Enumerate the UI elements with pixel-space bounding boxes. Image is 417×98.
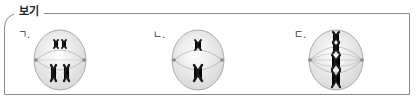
item-label-nieun: ㄴ. xyxy=(153,29,165,41)
cell-diagram-nieun xyxy=(171,28,225,92)
box-title: 보기 xyxy=(14,4,44,20)
cell-membrane-icon xyxy=(172,30,224,90)
centrosome-icon xyxy=(172,58,176,62)
cell-diagram-giyeok xyxy=(33,28,87,92)
item-label-giyeok: ㄱ. xyxy=(18,29,30,41)
centrosome-icon xyxy=(220,58,224,62)
centrosome-icon xyxy=(82,58,86,62)
centrosome-icon xyxy=(34,58,38,62)
centrosome-icon xyxy=(360,58,364,62)
centrosome-icon xyxy=(308,58,312,62)
cell-diagram-digeut xyxy=(307,28,365,92)
item-label-digeut: ㄷ. xyxy=(294,29,306,41)
